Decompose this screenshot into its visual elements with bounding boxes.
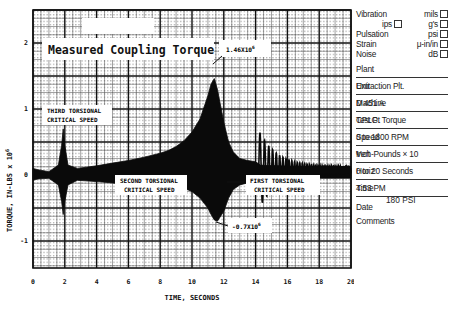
x-tick-2: 2 [63,278,67,286]
annotation-first-line1: FIRST TORSIONAL [250,177,305,184]
gs-label: g's [428,19,438,29]
uinin-label: μ-in/in [417,39,438,49]
torque-chart: Measured Coupling Torque THIRD TORSIONAL… [0,0,354,310]
y-tick--1: -1 [20,237,28,245]
vibration-label: Vibration [356,10,387,18]
chart-title: Measured Coupling Torque [48,43,214,57]
psi-label: psi [428,29,438,39]
x-tick-20: 20 [347,278,354,286]
x-tick-16: 16 [283,278,291,286]
unit-field[interactable]: Unit Extraction Plt. [356,80,448,95]
comments-field[interactable]: Comments [356,213,448,227]
y-tick-1: 1 [24,105,28,113]
x-tick-12: 12 [220,278,228,286]
y-axis-label: TORQUE, IN-LBS x 106 [4,149,14,232]
test-point-field[interactable]: Test Pt CPLG. Torque [356,114,448,129]
db-label: dB [428,49,438,59]
annotation-second-line2: CRITICAL SPEED [124,186,175,193]
annotation-third-line2: CRITICAL SPEED [47,116,98,123]
gs-checkbox[interactable] [440,20,448,28]
plant-field[interactable]: Plant [356,63,448,78]
strain-label: Strain [356,40,376,48]
vert-field[interactable]: Vert Inch-Pounds × 106 [356,148,448,163]
ips-checkbox[interactable] [394,20,402,28]
x-tick-labels: 02468101214161820 [31,278,354,286]
x-tick-8: 8 [158,278,162,286]
pulsation-label: Pulsation [356,30,388,38]
x-tick-6: 6 [126,278,130,286]
horiz-field[interactable]: Horiz 0 to 20 Seconds [356,165,448,180]
machine-field[interactable]: Machine D 451 A [356,97,448,112]
db-checkbox[interactable] [440,50,448,58]
x-tick-18: 18 [315,278,323,286]
x-axis-label: TIME, SECONDS [165,294,220,302]
y-tick-labels: 210-1 [20,39,28,245]
y-tick-2: 2 [24,39,28,47]
uinin-checkbox[interactable] [440,40,448,48]
noise-label: Noise [356,50,376,58]
mils-label: mils [424,9,438,19]
title-box-blank [82,18,154,34]
psi-checkbox[interactable] [440,30,448,38]
annotation-second-line1: SECOND TORSIONAL [120,177,178,184]
peak-label: 1.46X106 [226,45,255,53]
trough-label: -0.7X106 [232,222,261,230]
annotation-first-line2: CRITICAL SPEED [254,186,305,193]
speed-field[interactable]: Speed 0 to 1800 RPM [356,131,448,146]
mils-checkbox[interactable] [440,10,448,18]
x-tick-14: 14 [252,278,260,286]
x-tick-10: 10 [188,278,196,286]
annotation-third-line1: THIRD TORSIONAL [47,107,102,114]
ips-label: ips [382,19,392,29]
x-tick-4: 4 [95,278,99,286]
y-tick-0: 0 [24,171,28,179]
comments-value: 180 PSI [386,195,416,205]
x-tick-0: 0 [31,278,35,286]
